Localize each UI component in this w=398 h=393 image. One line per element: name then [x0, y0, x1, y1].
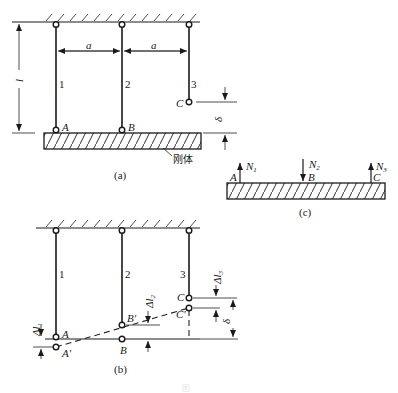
hinge-A-icon	[53, 334, 59, 340]
figure-caption: 图	[182, 384, 190, 393]
delta-l2-label: Δl2	[143, 294, 157, 309]
ceiling-support	[36, 220, 200, 228]
statics-figure: a a l δ 1 2 3 A B C 刚体 (a) N1 N2 N3 A B …	[0, 0, 398, 393]
rod-3-label: 3	[191, 78, 197, 90]
hinge-C-prime-icon	[186, 305, 192, 311]
point-A-label: A	[229, 171, 237, 183]
hinge-C-icon	[186, 295, 192, 301]
hinge-icon	[186, 228, 192, 234]
dim-delta-label: δ	[212, 116, 224, 122]
rigid-beam	[44, 133, 201, 149]
hinge-B-prime-icon	[119, 322, 125, 328]
caption-a: (a)	[114, 169, 127, 182]
point-C-prime-label: C'	[176, 308, 186, 320]
dim-delta-label: δ	[220, 318, 232, 324]
point-A-label: A	[61, 328, 69, 340]
force-N1-label: N1	[245, 160, 257, 174]
point-C-label: C	[177, 291, 185, 303]
hinge-C-icon	[186, 99, 192, 105]
panel-a: a a l δ 1 2 3 A B C 刚体 (a)	[12, 14, 237, 182]
hinge-icon	[119, 228, 125, 234]
hinge-B-icon	[119, 127, 125, 133]
hinge-icon	[53, 228, 59, 234]
hinge-icon	[53, 22, 59, 28]
hinge-icon	[119, 22, 125, 28]
rod-1-label: 1	[59, 268, 65, 280]
point-B-label: B	[120, 344, 127, 356]
point-C-label: C	[176, 97, 184, 109]
ceiling-support	[12, 14, 200, 22]
dim-a-label: a	[151, 39, 157, 51]
point-A-label: A	[61, 121, 69, 133]
rod-1-label: 1	[59, 78, 65, 90]
delta-l1-label: Δl1	[30, 323, 44, 337]
rod-2-label: 2	[125, 78, 131, 90]
panel-c: N1 N2 N3 A B C (c)	[227, 158, 387, 219]
delta-l3-label: Δl3	[211, 270, 225, 285]
caption-c: (c)	[299, 206, 312, 219]
panel-b: Δl1 Δl2 Δl3 δ 1 2 3 A A' B' B C C' (b)	[30, 220, 238, 376]
force-N2-label: N2	[308, 158, 320, 172]
point-A-prime-label: A'	[61, 347, 72, 359]
hinge-A-icon	[53, 127, 59, 133]
hinge-B-icon	[119, 336, 125, 342]
rod-2-label: 2	[125, 268, 131, 280]
dim-a-label: a	[86, 39, 92, 51]
hinge-A-prime-icon	[53, 344, 59, 350]
point-B-prime-label: B'	[127, 312, 137, 324]
point-B-label: B	[308, 171, 315, 183]
free-body-beam	[227, 183, 385, 199]
point-C-label: C	[373, 171, 381, 183]
caption-b: (b)	[114, 363, 127, 376]
point-B-label: B	[128, 121, 135, 133]
figure-canvas: a a l δ 1 2 3 A B C 刚体 (a) N1 N2 N3 A B …	[0, 0, 398, 393]
hinge-icon	[186, 22, 192, 28]
rigid-body-label: 刚体	[173, 154, 193, 165]
dim-l-label: l	[13, 79, 25, 82]
rod-3-label: 3	[180, 268, 186, 280]
